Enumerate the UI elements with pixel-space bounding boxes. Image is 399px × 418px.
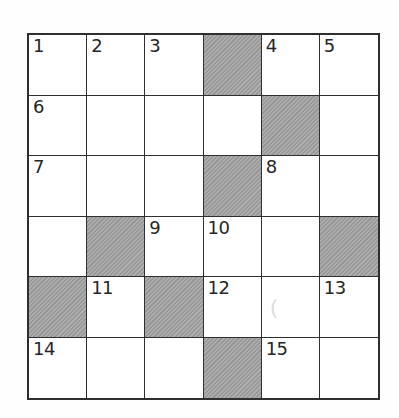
blocked-cell-r4c6	[320, 217, 378, 278]
clue-number: 10	[208, 218, 230, 238]
clue-number: 1	[33, 36, 44, 56]
clue-number: 12	[208, 278, 230, 298]
answer-cell-r6c3[interactable]	[145, 338, 203, 399]
clue-number: 6	[33, 97, 44, 117]
answer-cell-r5c5[interactable]: (	[262, 277, 320, 338]
blocked-cell-r5c3	[145, 277, 203, 338]
clue-number: 9	[149, 218, 160, 238]
scan-artifact-mark: (	[270, 295, 279, 320]
crossword-puzzle: 123456789101112(131415	[27, 33, 380, 400]
clue-number: 3	[149, 36, 160, 56]
answer-cell-r4c1[interactable]	[29, 217, 87, 278]
blocked-cell-r1c4	[204, 35, 262, 96]
clue-number: 7	[33, 157, 44, 177]
answer-cell-r1c2[interactable]: 2	[87, 35, 145, 96]
answer-cell-r2c4[interactable]	[204, 96, 262, 157]
clue-number: 13	[324, 278, 346, 298]
clue-number: 4	[266, 36, 277, 56]
crossword-grid: 123456789101112(131415	[27, 33, 380, 400]
clue-number: 8	[266, 157, 277, 177]
clue-number: 5	[324, 36, 335, 56]
answer-cell-r6c6[interactable]	[320, 338, 378, 399]
answer-cell-r2c6[interactable]	[320, 96, 378, 157]
answer-cell-r5c6[interactable]: 13	[320, 277, 378, 338]
blocked-cell-r2c5	[262, 96, 320, 157]
answer-cell-r1c1[interactable]: 1	[29, 35, 87, 96]
clue-number: 14	[33, 339, 55, 359]
answer-cell-r2c3[interactable]	[145, 96, 203, 157]
blocked-cell-r4c2	[87, 217, 145, 278]
answer-cell-r3c2[interactable]	[87, 156, 145, 217]
answer-cell-r4c5[interactable]	[262, 217, 320, 278]
answer-cell-r3c6[interactable]	[320, 156, 378, 217]
answer-cell-r6c1[interactable]: 14	[29, 338, 87, 399]
clue-number: 11	[91, 278, 113, 298]
answer-cell-r1c5[interactable]: 4	[262, 35, 320, 96]
blocked-cell-r5c1	[29, 277, 87, 338]
answer-cell-r6c5[interactable]: 15	[262, 338, 320, 399]
answer-cell-r4c4[interactable]: 10	[204, 217, 262, 278]
answer-cell-r4c3[interactable]: 9	[145, 217, 203, 278]
answer-cell-r2c1[interactable]: 6	[29, 96, 87, 157]
answer-cell-r5c4[interactable]: 12	[204, 277, 262, 338]
answer-cell-r1c3[interactable]: 3	[145, 35, 203, 96]
answer-cell-r3c3[interactable]	[145, 156, 203, 217]
clue-number: 2	[91, 36, 102, 56]
answer-cell-r3c1[interactable]: 7	[29, 156, 87, 217]
answer-cell-r6c2[interactable]	[87, 338, 145, 399]
clue-number: 15	[266, 339, 288, 359]
blocked-cell-r6c4	[204, 338, 262, 399]
blocked-cell-r3c4	[204, 156, 262, 217]
answer-cell-r3c5[interactable]: 8	[262, 156, 320, 217]
answer-cell-r5c2[interactable]: 11	[87, 277, 145, 338]
answer-cell-r2c2[interactable]	[87, 96, 145, 157]
answer-cell-r1c6[interactable]: 5	[320, 35, 378, 96]
